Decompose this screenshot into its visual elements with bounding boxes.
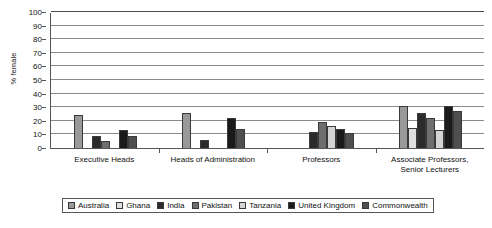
y-axis-tick-mark: [42, 121, 46, 122]
bar: [327, 126, 336, 148]
legend-item[interactable]: India: [157, 201, 184, 210]
x-axis-label-line: Associate Professors,: [391, 155, 468, 164]
bar: [128, 136, 137, 148]
legend-swatch: [68, 202, 75, 209]
legend-label: Commonwealth: [372, 201, 428, 210]
bar: [426, 118, 435, 148]
x-axis-label: Heads of Administration: [159, 155, 268, 165]
y-axis-tick-label: 30: [33, 104, 42, 112]
x-axis-tick-mark: [376, 149, 377, 153]
legend-item[interactable]: Australia: [68, 201, 109, 210]
chart-legend: AustraliaGhanaIndiaPakistanTanzaniaUnite…: [62, 198, 434, 213]
y-axis-tick-mark: [42, 12, 46, 13]
bar: [444, 106, 453, 148]
x-axis-label: Executive Heads: [50, 155, 159, 165]
y-axis-tick-label: 10: [33, 131, 42, 139]
bar: [101, 141, 110, 148]
legend-label: Ghana: [126, 201, 150, 210]
bar: [92, 136, 101, 148]
gridline: [51, 11, 484, 12]
legend-label: Tanzania: [249, 201, 281, 210]
bar-group: [291, 13, 354, 148]
bar: [227, 118, 236, 148]
legend-item[interactable]: Commonwealth: [362, 201, 428, 210]
y-axis-tick-mark: [42, 94, 46, 95]
legend-swatch: [192, 202, 199, 209]
y-axis-tick-label: 40: [33, 91, 42, 99]
legend-label: Pakistan: [202, 201, 233, 210]
x-axis-label-line: Professors: [302, 155, 340, 164]
x-axis-tick-mark: [267, 149, 268, 153]
legend-item[interactable]: Tanzania: [239, 201, 281, 210]
x-axis-label: Associate Professors,Senior Lecturers: [376, 155, 485, 175]
x-axis-tick-marks: [50, 149, 484, 154]
y-axis-tick-labels: 0102030405060708090100: [0, 13, 46, 149]
bar: [417, 113, 426, 148]
legend-swatch: [288, 202, 295, 209]
legend-item[interactable]: Pakistan: [192, 201, 233, 210]
x-axis-label-line: Senior Lecturers: [376, 165, 485, 175]
y-axis-tick-mark: [42, 53, 46, 54]
y-axis-tick-label: 90: [33, 23, 42, 31]
bar: [453, 111, 462, 148]
y-axis-tick-mark: [42, 107, 46, 108]
x-axis-tick-mark: [159, 149, 160, 153]
legend-label: Australia: [78, 201, 109, 210]
bar: [200, 140, 209, 148]
y-axis-tick-label: 50: [33, 77, 42, 85]
bar: [318, 122, 327, 148]
bar: [74, 115, 83, 148]
legend-label: United Kingdom: [298, 201, 355, 210]
bar-chart: % female 0102030405060708090100 Executiv…: [0, 0, 492, 228]
y-axis-tick-label: 0: [38, 145, 42, 153]
bar: [435, 130, 444, 148]
bar-group: [399, 13, 462, 148]
y-axis-tick-label: 70: [33, 50, 42, 58]
y-axis-tick-label: 60: [33, 63, 42, 71]
legend-swatch: [362, 202, 369, 209]
legend-label: India: [167, 201, 184, 210]
plot-area: [50, 13, 484, 149]
bar-group: [182, 13, 245, 148]
x-axis-label: Professors: [267, 155, 376, 165]
y-axis-tick-mark: [42, 80, 46, 81]
y-axis-tick-label: 100: [29, 9, 42, 17]
y-axis-tick-mark: [42, 66, 46, 67]
bar: [336, 129, 345, 148]
x-axis-labels: Executive HeadsHeads of AdministrationPr…: [50, 155, 484, 185]
legend-item[interactable]: United Kingdom: [288, 201, 355, 210]
bar: [309, 132, 318, 148]
y-axis-tick-mark: [42, 39, 46, 40]
legend-swatch: [239, 202, 246, 209]
y-axis-tick-mark: [42, 148, 46, 149]
bar: [345, 133, 354, 148]
bar: [399, 106, 408, 148]
y-axis-tick-label: 20: [33, 118, 42, 126]
legend-swatch: [116, 202, 123, 209]
bars-layer: [51, 13, 484, 148]
y-axis-tick-mark: [42, 26, 46, 27]
bar: [182, 113, 191, 148]
y-axis-tick-mark: [42, 134, 46, 135]
legend-item[interactable]: Ghana: [116, 201, 150, 210]
bar: [236, 129, 245, 148]
bar: [119, 130, 128, 148]
bar-group: [74, 13, 137, 148]
x-axis-label-line: Heads of Administration: [171, 155, 256, 164]
x-axis-label-line: Executive Heads: [74, 155, 134, 164]
bar: [408, 128, 417, 148]
y-axis-tick-label: 80: [33, 36, 42, 44]
legend-swatch: [157, 202, 164, 209]
